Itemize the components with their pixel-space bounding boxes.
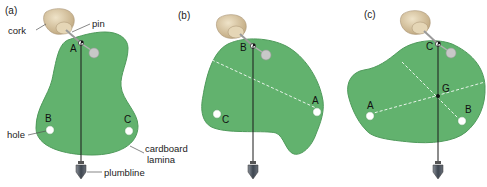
point-a-label: A [70,43,77,54]
pin-head-c [446,48,456,58]
pin-head-b [261,50,271,60]
cardboard-lamina-c [348,41,485,143]
lamina-label-line2: lamina [147,154,176,165]
panel-label-a: (a) [5,5,17,16]
centre-of-gravity-diagram: (a) cork pin A B C hole cardboard lamina [0,0,487,187]
point-b-label-c: B [465,104,472,115]
panel-a: (a) cork pin A B C hole cardboard lamina [5,5,188,179]
point-b-label-b: B [240,42,247,53]
point-a-label-c: A [367,100,374,111]
hole-a-c [366,112,374,120]
lamina-label-line1: cardboard [145,143,188,154]
panel-label-c: (c) [364,9,376,20]
pin-head-a [89,48,99,58]
cardboard-lamina-a [36,32,138,155]
panel-label-b: (b) [178,10,190,21]
point-c-label-b: C [222,114,229,125]
point-c-label-c: C [426,41,433,52]
hole-b-a [46,126,54,134]
plumb-bob-b [248,161,258,179]
hole-label: hole [7,129,25,140]
hole-c-b [213,110,221,118]
panel-b: (b) B A C [178,10,323,179]
point-c-label-a: C [124,114,131,125]
hole-c-a [125,127,133,135]
hole-a-b [313,108,321,116]
panel-c: (c) C A B G [348,9,485,179]
centre-of-gravity-point [436,94,440,98]
point-a-label-b: A [312,95,319,106]
plumbline-label: plumbline [104,167,145,178]
plumb-bob-a [76,161,86,179]
cork-label: cork [8,25,26,36]
point-b-label-a: B [45,113,52,124]
point-g-label: G [442,83,450,94]
plumb-bob-c [433,161,443,179]
hole-b-c [458,117,466,125]
cork-c [400,11,430,35]
cork-a [44,9,75,35]
pin-label: pin [92,18,105,29]
